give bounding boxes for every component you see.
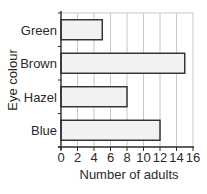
category-label: Hazel	[24, 90, 57, 105]
category-label: Brown	[20, 56, 57, 71]
x-tick-label: 8	[123, 150, 130, 165]
x-tick-label: 0	[57, 150, 64, 165]
bar-chart: 0246810121416 GreenBrownHazelBlue Number…	[0, 0, 207, 194]
bar-brown	[61, 53, 185, 73]
bars	[61, 20, 185, 141]
bar-green	[61, 20, 102, 40]
x-tick-labels: 0246810121416	[57, 150, 200, 165]
y-axis-title: Eye colour	[5, 49, 20, 111]
x-axis-title: Number of adults	[80, 167, 179, 182]
category-labels: GreenBrownHazelBlue	[20, 23, 57, 139]
x-tick-label: 4	[90, 150, 97, 165]
category-label: Green	[21, 23, 57, 38]
x-tick-label: 14	[169, 150, 183, 165]
x-tick-label: 12	[153, 150, 167, 165]
bar-blue	[61, 120, 160, 140]
x-tick-label: 6	[107, 150, 114, 165]
x-tick-label: 16	[186, 150, 200, 165]
category-label: Blue	[31, 123, 57, 138]
x-tick-label: 10	[136, 150, 150, 165]
x-tick-label: 2	[74, 150, 81, 165]
bar-hazel	[61, 87, 127, 107]
